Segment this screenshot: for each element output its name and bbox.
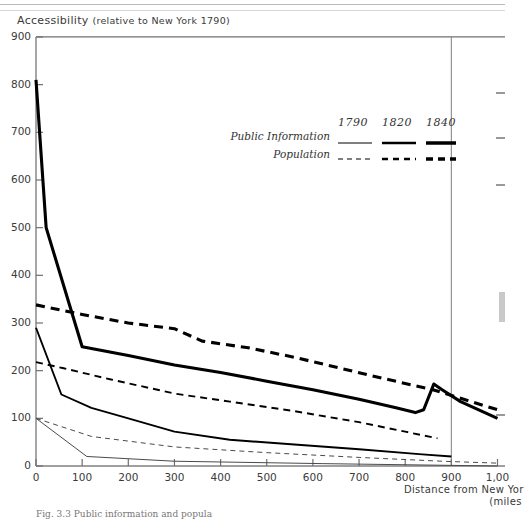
legend: Public Information Population 1790 1820 … — [218, 116, 448, 168]
legend-year-1820: 1820 — [382, 116, 412, 129]
y-tick-label: 100 — [0, 411, 31, 423]
legend-label-population: Population — [273, 148, 330, 160]
x-axis-title-line1: Distance from New Yor — [404, 484, 524, 495]
x-axis-title-line2: (miles — [404, 496, 524, 508]
x-axis-title: Distance from New Yor (miles — [404, 484, 524, 508]
y-tick-label: 300 — [0, 316, 31, 328]
x-tick-label: 1,00 — [478, 471, 518, 483]
series-line — [36, 362, 438, 438]
x-tick-label: 0 — [16, 471, 56, 483]
x-tick-label: 100 — [62, 471, 102, 483]
legend-label-public-information: Public Information — [231, 130, 331, 142]
axes-group — [36, 37, 505, 466]
y-tick-label: 800 — [0, 78, 31, 90]
y-tick-label: 200 — [0, 364, 31, 376]
x-tick-label: 400 — [201, 471, 241, 483]
x-tick-label: 500 — [247, 471, 287, 483]
x-tick-label: 800 — [385, 471, 425, 483]
y-tick-label: 600 — [0, 173, 31, 185]
x-tick-label: 700 — [339, 471, 379, 483]
x-tick-label: 300 — [154, 471, 194, 483]
y-tick-label: 700 — [0, 125, 31, 137]
x-tick-label: 200 — [108, 471, 148, 483]
series-line — [36, 418, 498, 463]
figure-caption: Fig. 3.3 Public information and popula — [36, 509, 212, 519]
legend-year-1790: 1790 — [338, 116, 368, 129]
x-tick-label: 600 — [293, 471, 333, 483]
y-tick-label: 400 — [0, 268, 31, 280]
y-tick-label: 900 — [0, 30, 31, 42]
x-tick-label: 900 — [431, 471, 471, 483]
y-tick-label: 0 — [0, 459, 31, 471]
legend-year-1840: 1840 — [426, 116, 456, 129]
y-tick-label: 500 — [0, 221, 31, 233]
legend-samples: 1790 1820 1840 — [336, 116, 456, 168]
